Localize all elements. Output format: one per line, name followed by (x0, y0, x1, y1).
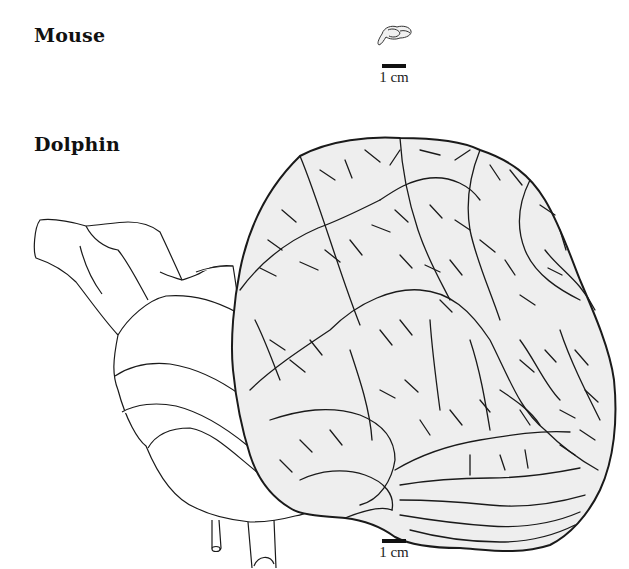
scale-bar-line (382, 64, 406, 68)
scale-bar-line (382, 539, 406, 543)
mouse-brain-illustration (378, 26, 411, 45)
dolphin-cortex-illustration (232, 138, 615, 552)
mouse-scale-label: 1 cm (374, 69, 414, 86)
dolphin-scale-bar: 1 cm (374, 539, 414, 561)
mouse-scale-bar: 1 cm (374, 64, 414, 86)
figure-drawing (0, 0, 629, 569)
dolphin-scale-label: 1 cm (374, 544, 414, 561)
